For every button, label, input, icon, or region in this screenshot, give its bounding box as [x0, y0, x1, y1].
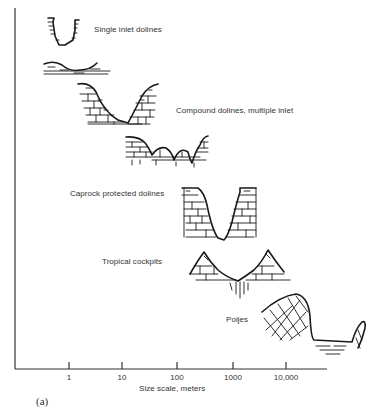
panel-label: (a)	[36, 395, 48, 407]
landform-diagram	[0, 0, 380, 419]
caprock-doline-sketch	[182, 188, 256, 240]
compound-multiple-inlet-sketch	[126, 136, 208, 167]
label-compound-dolines: Compound dolines, multiple inlet	[176, 106, 293, 115]
tropical-cockpit-sketch	[190, 250, 290, 298]
axes	[15, 8, 327, 369]
x-axis-label: Size scale, meters	[139, 384, 205, 393]
label-single-inlet-dolines: Single inlet dolines	[94, 25, 162, 34]
tick-label-1: 1	[67, 373, 71, 382]
tick-label-10: 10	[118, 373, 127, 382]
tick-label-100: 100	[170, 373, 183, 382]
polje-sketch	[262, 294, 365, 354]
label-poljes: Poljes	[226, 315, 248, 324]
label-caprock-dolines: Caprock protected dolines	[70, 189, 164, 198]
tick-label-1000: 1000	[224, 373, 242, 382]
compound-doline-sketch	[78, 84, 158, 124]
label-tropical-cockpits: Tropical cockpits	[102, 257, 162, 266]
tick-label-10000: 10,000	[274, 373, 298, 382]
